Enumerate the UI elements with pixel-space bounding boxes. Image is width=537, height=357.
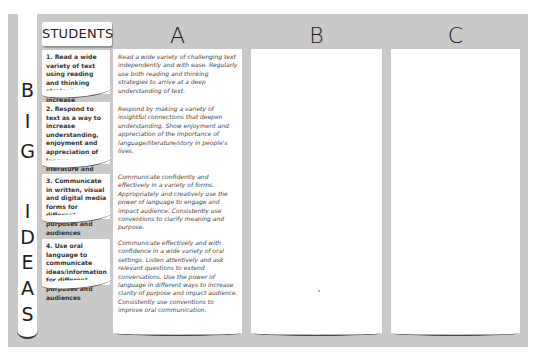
student-goal-label: 2. Respond to text as a way to increase …: [46, 105, 101, 181]
students-header: STUDENTS: [42, 22, 112, 46]
student-goal-card-4: 4. Use oral language to communicate idea…: [42, 239, 110, 285]
column-panel-a: Read a wide variety of challenging text …: [113, 49, 242, 334]
big-ideas-letter: G: [18, 141, 37, 161]
level-description: Read a wide variety of challenging text …: [118, 53, 240, 95]
rubric-board: B I G I D E A S STUDENTS 1. Read a wide …: [8, 14, 528, 347]
student-goal-card-2: 2. Respond to text as a way to increase …: [42, 102, 110, 164]
big-ideas-letter: S: [18, 304, 37, 324]
student-goal-label: 3. Communicate in written, visual and di…: [46, 177, 106, 236]
level-description: Communicate confidently and effectively …: [118, 173, 240, 232]
column-header-b: B: [251, 22, 382, 50]
paper-speck: [318, 290, 320, 292]
column-panel-b: [251, 49, 382, 334]
column-panel-c: [391, 49, 520, 334]
big-ideas-letter: A: [18, 278, 37, 298]
student-goal-card-3: 3. Communicate in written, visual and di…: [42, 174, 110, 219]
column-header-c: C: [391, 22, 520, 50]
big-ideas-letter: D: [18, 227, 37, 247]
big-ideas-letter: I: [18, 201, 37, 221]
student-goal-label: 4. Use oral language to communicate idea…: [46, 242, 107, 301]
level-description: Communicate effectively and with confide…: [118, 239, 240, 315]
column-header-a: A: [113, 22, 242, 50]
big-ideas-letter: I: [18, 111, 37, 131]
big-ideas-letter: E: [18, 252, 37, 272]
big-ideas-strip: B I G I D E A S: [18, 14, 37, 338]
big-ideas-letter: B: [18, 80, 37, 100]
level-description: Respond by making a variety of insightfu…: [118, 105, 240, 155]
student-goal-card-1: 1. Read a wide variety of text using rea…: [42, 50, 110, 94]
